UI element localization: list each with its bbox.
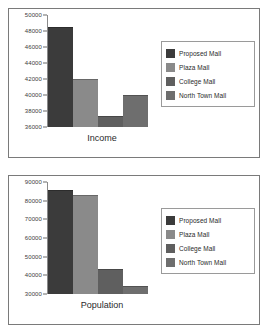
bar-income-0 [48,27,73,127]
bar-population-2 [98,269,123,294]
legend-income: Proposed MallPlaza MallCollege MallNorth… [161,41,255,107]
x-axis-label-population: Population [48,300,156,310]
bar-population-0 [48,190,73,294]
legend-swatch-icon [166,49,175,58]
legend-item-population-2: College Mall [166,241,249,255]
legend-item-population-1: Plaza Mall [166,227,249,241]
bar-income-2 [98,116,123,127]
legend-item-income-0: Proposed Mall [166,46,249,60]
legend-swatch-icon [166,230,175,239]
bar-income-3 [123,95,148,127]
plot-area-population: 30000400005000060000700008000090000 Popu… [9,176,259,324]
y-tick-label-population-6: 90000 [25,179,42,185]
legend-item-population-0: Proposed Mall [166,213,249,227]
legend-item-population-3: North Town Mall [166,255,249,269]
legend-swatch-icon [166,244,175,253]
legend-label: College Mall [179,245,215,252]
legend-population: Proposed MallPlaza MallCollege MallNorth… [161,208,255,274]
y-tick-label-income-3: 42000 [25,76,42,82]
bar-group-population [48,182,148,294]
legend-label: Plaza Mall [179,64,209,71]
y-tick-label-income-0: 36000 [25,124,42,130]
legend-swatch-icon [166,77,175,86]
y-tick-label-population-4: 70000 [25,216,42,222]
legend-item-income-3: North Town Mall [166,88,249,102]
y-tick-label-income-2: 40000 [25,92,42,98]
y-tick-label-income-7: 50000 [25,12,42,18]
legend-swatch-icon [166,91,175,100]
bar-group-income [48,15,148,127]
chart-panel-income: 3600038000400004200044000460004800050000… [8,8,260,158]
y-axis-income: 3600038000400004200044000460004800050000 [11,15,47,127]
legend-item-income-1: Plaza Mall [166,60,249,74]
legend-label: Plaza Mall [179,231,209,238]
chart-page: 3600038000400004200044000460004800050000… [0,0,270,334]
legend-swatch-icon [166,63,175,72]
y-tick-label-population-3: 60000 [25,235,42,241]
y-tick-label-income-6: 48000 [25,28,42,34]
legend-label: North Town Mall [179,259,226,266]
y-tick-label-population-0: 30000 [25,291,42,297]
x-axis-label-income: Income [48,133,156,143]
y-axis-population: 30000400005000060000700008000090000 [11,182,47,294]
y-tick-label-income-1: 38000 [25,108,42,114]
bar-population-3 [123,286,148,294]
legend-label: College Mall [179,78,215,85]
legend-label: Proposed Mall [179,217,221,224]
y-tick-label-income-5: 46000 [25,44,42,50]
y-tick-label-population-5: 80000 [25,198,42,204]
bar-income-1 [73,79,98,127]
y-tick-label-income-4: 44000 [25,60,42,66]
legend-swatch-icon [166,216,175,225]
bar-population-1 [73,195,98,294]
y-tick-label-population-2: 50000 [25,254,42,260]
plot-area-income: 3600038000400004200044000460004800050000… [9,9,259,157]
legend-label: North Town Mall [179,92,226,99]
y-tick-label-population-1: 40000 [25,272,42,278]
chart-panel-population: 30000400005000060000700008000090000 Popu… [8,175,260,325]
legend-label: Proposed Mall [179,50,221,57]
legend-swatch-icon [166,258,175,267]
legend-item-income-2: College Mall [166,74,249,88]
